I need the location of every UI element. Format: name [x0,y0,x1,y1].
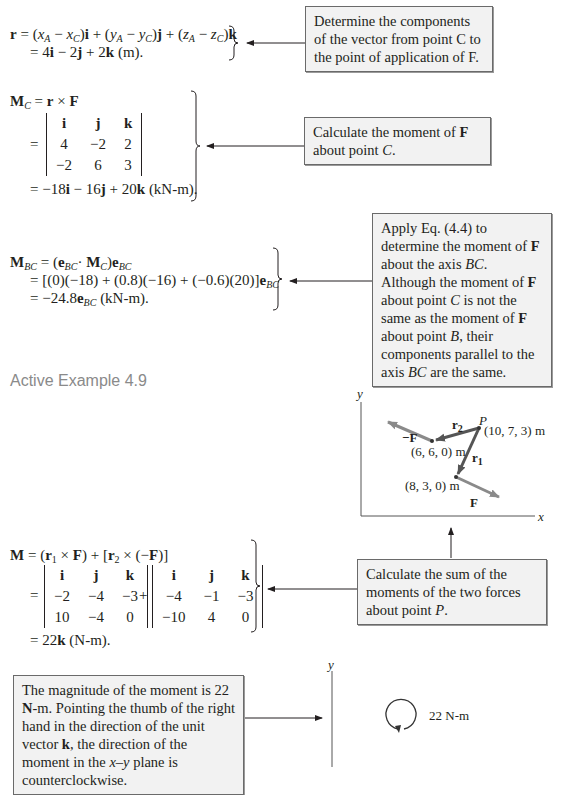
moment-bc-result: = −24.8eBC (kN-m). [30,289,149,307]
diagram-axis-y: y [357,386,363,402]
label-point-a-coords: (6, 6, 0) m [411,444,466,460]
diagram-axis-x: x [538,509,544,525]
equals-sign-2: = [30,586,38,604]
note-step4: Calculate the sum of the moments of the … [357,559,547,625]
note-step1: Determine the components of the vector f… [305,6,493,72]
determinant-mc: ijk 4−22 −263 [46,113,142,176]
note-step2: Calculate the moment of F about point C. [304,117,491,165]
label-neg-f: −F [402,430,417,446]
moment-label: 22 N-m [429,708,469,724]
moment-axis-y: y [328,657,334,673]
label-f: F [470,495,478,511]
total-moment-equation: M = (r1 × F) + [r2 × (−F)] [10,546,168,564]
moment-diagram [332,671,416,767]
plus-sign: + [139,586,147,604]
determinant-r1: ijk −2−4−3 10−40 [44,565,148,628]
label-r1: r1 [472,450,483,466]
note-step5: The magnitude of the moment is 22 N-m. P… [13,675,244,795]
equals-sign: = [30,135,38,153]
note-step3: Apply Eq. (4.4) to determine the moment … [372,213,552,387]
label-point-p-coords: (10, 7, 3) m [484,423,545,439]
label-point-b-coords: (8, 3, 0) m [405,478,460,494]
moment-c-result: = −18i − 16j + 20k (kN-m). [30,180,198,198]
label-r2: r2 [452,417,463,433]
total-moment-result: = 22k (N-m). [30,631,111,649]
position-vector-result: = 4i − 2j + 2k (m). [30,43,143,61]
moment-bc-expansion: = [(0)(−18) + (0.8)(−16) + (−0.6)(20)]eB… [30,271,279,289]
position-vector-equation: r = (xA − xC)i + (yA − yC)j + (zA − zC)k [10,25,237,43]
moment-c-equation: MC = r × F [10,92,79,110]
section-heading: Active Example 4.9 [10,372,147,390]
moment-bc-equation: MBC = (eBC· MC)eBC [10,253,131,271]
determinant-r2: ijk −4−1−3 −1040 [152,565,263,628]
